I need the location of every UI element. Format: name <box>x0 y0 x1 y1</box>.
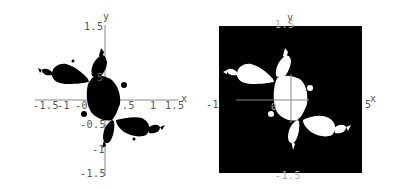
x-tick-right: 5 <box>365 100 372 110</box>
y-tick-label: 1.5 <box>84 22 104 32</box>
x-tick-label: -1 <box>57 101 70 111</box>
x-tick-label: -1.5 <box>33 101 59 111</box>
y-tick-label: -0.5 <box>80 120 106 130</box>
julia-set-plot-filled: y x -1.5 -1 -0 .5 1 1.5 1.5 5 -0.5 -1 -1… <box>0 0 200 189</box>
y-tick-label: 5 <box>97 73 104 83</box>
x-tick-label: 1 <box>150 101 157 111</box>
y-axis-label: y <box>103 12 109 22</box>
x-tick-left: -1 <box>206 100 219 110</box>
y-tick-label: -1 <box>92 145 105 155</box>
x-tick-label: -0 <box>75 101 88 111</box>
y-tick-label: -1.5 <box>80 169 106 179</box>
center-tick: 0 <box>271 102 277 112</box>
x-tick-label: 1.5 <box>165 101 185 111</box>
julia-set-plot-inverted: y x -1 5 1.5 -1.5 0 <box>195 0 393 189</box>
y-tick-bottom: -1.5 <box>275 171 301 181</box>
y-tick-top: 1.5 <box>275 20 295 30</box>
x-tick-label: .5 <box>122 101 135 111</box>
